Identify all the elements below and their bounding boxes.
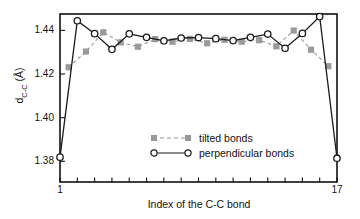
legend-label-perpendicular-bonds: perpendicular bonds (199, 147, 294, 159)
x-tick-label-first: 1 (45, 184, 75, 195)
data-point-marker (109, 46, 115, 52)
data-point-marker (143, 34, 149, 40)
legend-item-perpendicular-bonds: perpendicular bonds (150, 145, 294, 160)
data-point-marker (83, 48, 89, 54)
data-point-marker (161, 38, 167, 44)
data-point-marker (299, 30, 305, 36)
data-point-marker (247, 34, 253, 40)
data-point-marker (74, 18, 80, 24)
data-point-marker (91, 30, 97, 36)
data-point-marker (316, 13, 322, 19)
x-axis-label: Index of the C-C bond (60, 198, 338, 210)
data-point-marker (308, 47, 314, 53)
legend-item-tilted-bonds: tilted bonds (150, 130, 294, 145)
legend-marker-open-circle-icon (150, 146, 192, 160)
y-tick-label: 1.42 (14, 68, 54, 79)
figure-chart: dC-C (Å) Index of the C-C bond 1 17 1.38… (0, 0, 360, 219)
data-point-marker (334, 155, 340, 161)
data-point-marker (135, 44, 141, 50)
data-point-marker (100, 29, 106, 35)
data-point-marker (273, 43, 279, 49)
data-point-marker (291, 27, 297, 33)
y-tick-label: 1.38 (14, 155, 54, 166)
data-point-marker (230, 37, 236, 43)
data-point-marker (57, 154, 63, 160)
data-point-marker (256, 37, 262, 43)
chart-legend: tilted bonds perpendicular bonds (150, 130, 294, 160)
data-point-marker (265, 31, 271, 37)
legend-marker-filled-square-icon (150, 131, 192, 145)
data-point-marker (195, 34, 201, 40)
data-point-marker (178, 35, 184, 41)
data-point-marker (187, 36, 193, 42)
data-point-marker (126, 31, 132, 37)
y-tick-label: 1.44 (14, 24, 54, 35)
x-tick-label-last: 17 (322, 184, 352, 195)
data-point-marker (282, 45, 288, 51)
y-tick-label: 1.40 (14, 112, 54, 123)
data-point-marker (213, 35, 219, 41)
legend-label-tilted-bonds: tilted bonds (199, 132, 253, 144)
data-point-marker (204, 40, 210, 46)
